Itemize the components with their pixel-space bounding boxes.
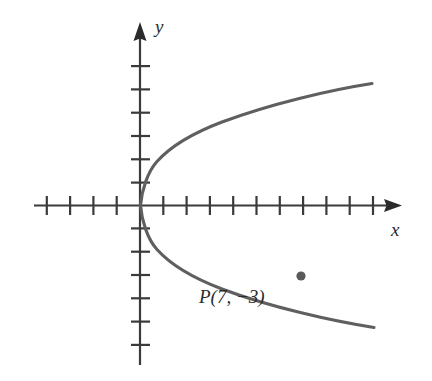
y-axis-label: y (153, 16, 164, 37)
parabola-upper-branch (141, 84, 373, 206)
parabola-figure: y x P(7, −3) (0, 0, 432, 381)
parabola-lower-branch (141, 206, 375, 328)
point-label-P: P(7, −3) (198, 286, 265, 308)
x-axis-label: x (390, 219, 400, 240)
point-marker-P (296, 271, 305, 280)
y-axis-arrowhead (134, 22, 147, 41)
x-axis-arrowhead (384, 199, 402, 212)
coordinate-plane: y x P(7, −3) (0, 0, 432, 381)
